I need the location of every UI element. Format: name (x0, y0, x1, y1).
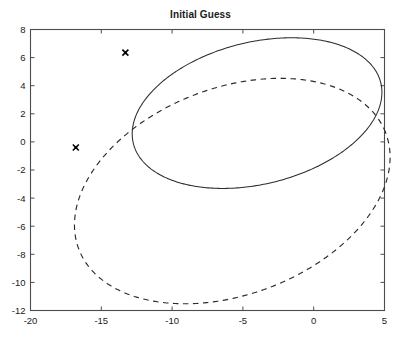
x-tick-label: 0 (311, 315, 316, 326)
y-tick-label: -8 (17, 249, 25, 260)
plot-canvas: -20-15-10-505-12-10-8-6-4-202468 (0, 0, 401, 337)
curve-solid-orbit (132, 38, 382, 189)
y-tick-label: -2 (17, 164, 25, 175)
axes-frame (31, 30, 385, 311)
series-solid-orbit (122, 38, 382, 189)
y-tick-label: 4 (20, 80, 25, 91)
y-tick-label: 0 (20, 136, 25, 147)
y-tick-label: -4 (17, 193, 25, 204)
y-tick-label: -10 (12, 277, 26, 288)
y-tick-label: 8 (20, 24, 25, 35)
x-tick-label: -5 (239, 315, 247, 326)
x-axis: -20-15-10-505 (24, 30, 388, 326)
y-tick-label: 2 (20, 108, 25, 119)
x-tick-label: -15 (94, 315, 108, 326)
y-axis: -12-10-8-6-4-202468 (12, 24, 385, 316)
y-tick-label: -12 (12, 305, 26, 316)
x-tick-label: -20 (24, 315, 38, 326)
curve-dashed-orbit (74, 78, 390, 303)
series-dashed-orbit (73, 78, 390, 303)
y-tick-label: -6 (17, 221, 25, 232)
y-tick-label: 6 (20, 52, 25, 63)
x-tick-label: 5 (382, 315, 387, 326)
figure-container: Initial Guess -20-15-10-505-12-10-8-6-4-… (0, 0, 401, 337)
x-tick-label: -10 (165, 315, 179, 326)
marker-solid-orbit (122, 50, 128, 56)
marker-dashed-orbit (73, 145, 79, 151)
